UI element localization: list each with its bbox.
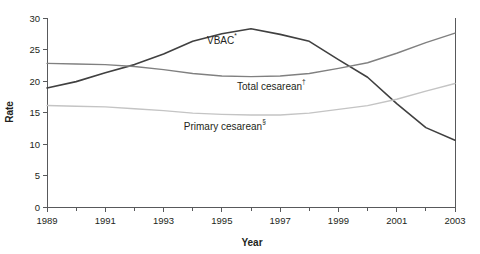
x-tick-label: 1999 <box>328 215 349 226</box>
series-label-total-cesarean: Total cesarean† <box>237 77 306 92</box>
y-tick-label: 10 <box>29 139 40 150</box>
y-tick-label: 20 <box>29 76 40 87</box>
series-label-text: VBAC <box>207 35 234 46</box>
series-label-footnote-marker: † <box>302 77 306 84</box>
y-tick-label: 30 <box>29 13 40 24</box>
y-tick-label: 5 <box>35 170 40 181</box>
x-tick-label: 2001 <box>386 215 407 226</box>
x-axis-title: Year <box>241 237 262 248</box>
x-axis-ticks: 19891991199319951997199920012003 <box>36 207 465 226</box>
chart-canvas: 051015202530 198919911993199519971999200… <box>0 0 480 254</box>
series-label-text: Primary cesarean <box>184 121 262 132</box>
series-annotations: VBAC*Total cesarean†Primary cesarean§ <box>184 31 306 131</box>
y-axis-ticks: 051015202530 <box>29 13 47 213</box>
series-label-footnote-marker: § <box>262 117 266 124</box>
x-tick-label: 1997 <box>270 215 291 226</box>
series-label-footnote-marker: * <box>234 31 237 38</box>
x-tick-label: 1989 <box>36 215 57 226</box>
y-tick-label: 0 <box>35 202 40 213</box>
x-tick-label: 1993 <box>153 215 174 226</box>
x-tick-label: 1995 <box>211 215 232 226</box>
series-line-total-cesarean <box>47 33 455 76</box>
y-tick-label: 25 <box>29 44 40 55</box>
series-label-text: Total cesarean <box>237 81 302 92</box>
cesarean-rate-line-chart: 051015202530 198919911993199519971999200… <box>0 0 480 254</box>
y-axis-title: Rate <box>4 101 15 123</box>
series-label-primary-cesarean: Primary cesarean§ <box>184 117 266 132</box>
x-tick-label: 2003 <box>444 215 465 226</box>
y-tick-label: 15 <box>29 107 40 118</box>
x-tick-label: 1991 <box>95 215 116 226</box>
